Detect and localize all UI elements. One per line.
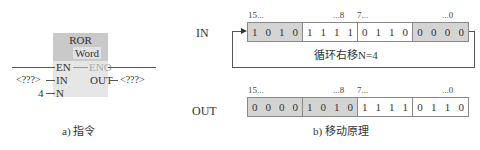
in-header-15: 15... — [248, 10, 264, 20]
en-pin-label: EN — [56, 61, 71, 73]
en-eno-wire — [73, 67, 88, 68]
bit: 0 — [262, 101, 274, 113]
ror-block-type: Word — [73, 47, 101, 59]
in-wire — [46, 80, 55, 81]
bit: 1 — [359, 101, 371, 113]
bit: 0 — [289, 101, 301, 113]
in-header-7: 7... — [357, 10, 368, 20]
bit: 1 — [399, 101, 411, 113]
principle-caption: b) 移动原理 — [313, 125, 369, 138]
bit: 0 — [276, 101, 288, 113]
bit: 0 — [455, 101, 467, 113]
out-wire — [109, 80, 118, 81]
out-bit-register: 0 0 0 0 1 0 1 0 1 1 1 1 0 1 1 0 — [247, 97, 469, 117]
out-value[interactable]: <???> — [120, 74, 145, 85]
out-header-15: 15... — [248, 85, 264, 95]
bit: 0 — [317, 101, 329, 113]
out-nibble-0: 0 1 1 0 — [413, 98, 468, 116]
arrow-right-icon — [241, 28, 247, 34]
bit: 1 — [428, 101, 440, 113]
ror-block-title: ROR — [53, 34, 108, 46]
instruction-caption: a) 指令 — [62, 125, 95, 138]
out-nibble-2: 1 0 1 0 — [303, 98, 358, 116]
n-value[interactable]: 4 — [38, 87, 44, 99]
n-wire — [46, 93, 55, 94]
in-value[interactable]: <???> — [16, 74, 41, 85]
out-nibble-1: 1 1 1 1 — [358, 98, 413, 116]
out-header-0: ...0 — [442, 85, 453, 95]
en-wire — [12, 67, 55, 68]
eno-wire — [108, 67, 156, 68]
bit: 1 — [304, 101, 316, 113]
bit: 1 — [331, 101, 343, 113]
bit: 0 — [414, 101, 426, 113]
shift-label: 循环右移N=4 — [314, 49, 378, 62]
bit: 1 — [372, 101, 384, 113]
out-row-label: OUT — [192, 105, 217, 117]
n-pin-label: N — [56, 87, 64, 99]
bit: 1 — [386, 101, 398, 113]
in-header-8: ...8 — [333, 10, 344, 20]
bit: 0 — [344, 101, 356, 113]
in-pin-label: IN — [56, 74, 68, 86]
out-header-8: ...8 — [333, 85, 344, 95]
out-header-7: 7... — [357, 85, 368, 95]
bit: 1 — [441, 101, 453, 113]
out-nibble-3: 0 0 0 0 — [248, 98, 303, 116]
bit: 0 — [249, 101, 261, 113]
in-header-0: ...0 — [442, 10, 453, 20]
in-row-label: IN — [196, 27, 209, 39]
